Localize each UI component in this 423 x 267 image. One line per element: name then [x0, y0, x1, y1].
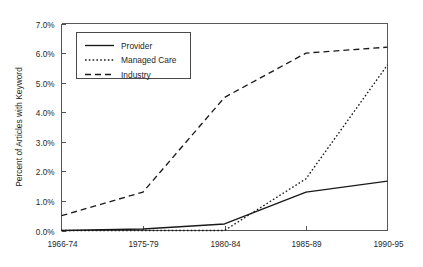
series-line-provider: [62, 181, 388, 230]
y-axis-title-text: Percent of Articles with Keyword: [14, 67, 24, 187]
chart-legend: ProviderManaged CareIndustry: [77, 33, 191, 80]
y-axis-tick-labels: 0.0%1.0%2.0%3.0%4.0%5.0%6.0%7.0%: [36, 21, 55, 237]
y-tick-label: 5.0%: [36, 80, 55, 89]
x-tick-label: 1975-79: [128, 240, 158, 249]
y-tick-label: 6.0%: [36, 50, 55, 59]
x-tick-label: 1966-74: [47, 240, 77, 249]
legend-label-industry: Industry: [121, 70, 152, 80]
x-tick-label: 1985-89: [291, 240, 321, 249]
x-tick-label: 1990-95: [373, 240, 403, 249]
y-tick-label: 0.0%: [36, 228, 55, 237]
x-tick-label: 1980-84: [210, 240, 240, 249]
y-tick-label: 1.0%: [36, 198, 55, 207]
y-tick-label: 2.0%: [36, 168, 55, 177]
y-axis-title: Percent of Articles with Keyword: [14, 67, 24, 187]
y-tick-label: 3.0%: [36, 139, 55, 148]
y-tick-label: 4.0%: [36, 109, 55, 118]
y-tick-label: 7.0%: [36, 21, 55, 30]
legend-label-managed-care: Managed Care: [121, 55, 177, 65]
series-line-managed-care: [62, 65, 388, 231]
line-chart: 0.0%1.0%2.0%3.0%4.0%5.0%6.0%7.0% 1966-74…: [0, 0, 423, 267]
legend-label-provider: Provider: [121, 41, 152, 51]
x-axis-tick-labels: 1966-741975-791980-841985-891990-95: [47, 240, 403, 249]
chart-figure: 0.0%1.0%2.0%3.0%4.0%5.0%6.0%7.0% 1966-74…: [0, 0, 423, 267]
